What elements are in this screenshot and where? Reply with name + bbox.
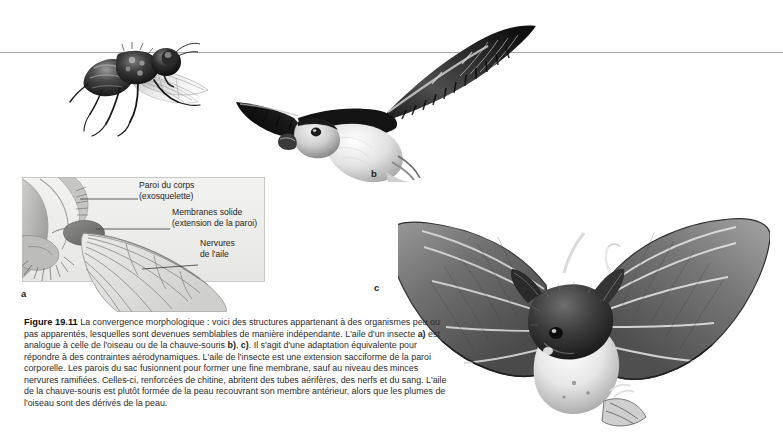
diagram-label-line1: Membranes solide: [172, 207, 242, 217]
bat-in-flight-photo: [398, 215, 770, 438]
bird-beak: [278, 133, 297, 150]
diagram-label-line2: (exosquelette): [139, 191, 193, 201]
diagram-label-membrane: Membranes solide(extension de la paroi): [172, 207, 257, 228]
caption-marker-a: a): [418, 329, 426, 339]
diagram-label-line1: Paroi du corps: [139, 180, 194, 190]
bird-right-wing: [386, 26, 536, 119]
diagram-label-line1: Nervures: [200, 238, 235, 248]
panel-letter-a: a: [21, 288, 26, 299]
diagram-label-line2: de l'aile: [200, 249, 229, 259]
caption-marker-c: c): [241, 340, 249, 350]
bat-tail-membrane: [602, 399, 646, 426]
panel-letter-b: b: [371, 168, 377, 179]
figure-number: Figure 19.11: [24, 317, 78, 327]
fly-photo: [58, 18, 248, 143]
caption-text-3: . Il s'agit d'une adaptation équivalente…: [24, 340, 447, 408]
figure-page: Paroi du corps(exosquelette) Membranes s…: [0, 0, 783, 438]
caption-text-1: La convergence morphologique : voici des…: [24, 317, 440, 339]
figure-caption: Figure 19.11 La convergence morphologiqu…: [24, 317, 448, 409]
diagram-label-wing-veins: Nervuresde l'aile: [200, 238, 235, 259]
caption-marker-b: b): [228, 340, 236, 350]
panel-letter-c: c: [374, 282, 379, 293]
diagram-label-body-wall: Paroi du corps(exosquelette): [139, 180, 194, 201]
bird-in-flight-photo: [236, 22, 571, 182]
diagram-label-line2: (extension de la paroi): [172, 218, 257, 228]
bat-right-wing: [603, 219, 770, 380]
